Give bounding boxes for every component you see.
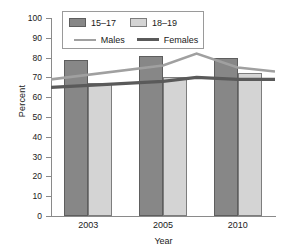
males-line-swatch-icon	[74, 39, 96, 41]
legend-item-18-19: 18–19	[130, 18, 177, 28]
legend-row-lines: Males Females	[63, 32, 205, 47]
y-axis-tick-label: 80	[20, 54, 42, 63]
dark-gray-swatch-icon	[69, 18, 86, 27]
y-axis-tick-label: 0	[20, 212, 42, 221]
legend-row-bars: 15–17 18–19	[63, 15, 205, 30]
legend-label-females: Females	[164, 35, 199, 45]
y-axis-tick-label: 70	[20, 73, 42, 82]
light-gray-swatch-icon	[130, 18, 147, 27]
legend-item-females: Females	[137, 35, 199, 45]
y-axis-tick-label: 40	[20, 133, 42, 142]
males-line	[51, 54, 275, 80]
legend-item-males: Males	[74, 35, 125, 45]
females-line	[51, 77, 275, 87]
x-axis-tick-label-2005: 2005	[133, 220, 193, 230]
legend-item-15-17: 15–17	[69, 18, 116, 28]
females-line-swatch-icon	[137, 38, 159, 41]
x-axis-tick-label-2003: 2003	[58, 220, 118, 230]
legend-label-males: Males	[101, 35, 125, 45]
x-axis-title: Year	[51, 236, 276, 246]
y-axis-tick-label: 50	[20, 113, 42, 122]
chart-legend: 15–17 18–19 Males Females	[62, 11, 204, 49]
y-axis-tick-label: 90	[20, 34, 42, 43]
chart-figure: Percent 0102030405060708090100 200320052…	[0, 0, 286, 252]
y-axis-tick-label: 20	[20, 172, 42, 181]
y-axis-tick-label: 30	[20, 153, 42, 162]
x-axis-line	[51, 216, 276, 217]
legend-label-15-17: 15–17	[91, 18, 116, 28]
legend-label-18-19: 18–19	[152, 18, 177, 28]
y-axis-tick-label: 10	[20, 192, 42, 201]
x-axis-tick-label-2010: 2010	[208, 220, 268, 230]
y-axis-tick-label: 100	[20, 14, 42, 23]
y-axis-tick-label: 60	[20, 93, 42, 102]
